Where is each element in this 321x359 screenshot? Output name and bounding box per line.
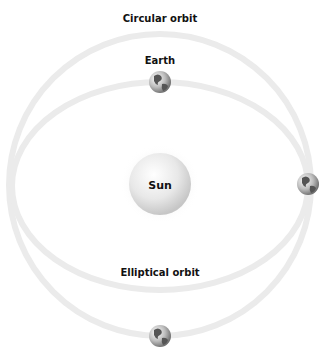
circular-orbit-label: Circular orbit (123, 13, 198, 24)
sun-label: Sun (148, 179, 172, 192)
earth-bottom (149, 325, 171, 347)
orbit-diagram: Sun Earth Circular orbit Elliptical orbi… (0, 0, 321, 359)
elliptical-orbit-label: Elliptical orbit (120, 267, 199, 278)
earth-globe-icon (149, 71, 171, 93)
earth-right (297, 173, 319, 195)
earth-globe-icon (297, 173, 319, 195)
earth-top (149, 71, 171, 93)
earth-label: Earth (145, 55, 175, 66)
earth-globe-icon (149, 325, 171, 347)
